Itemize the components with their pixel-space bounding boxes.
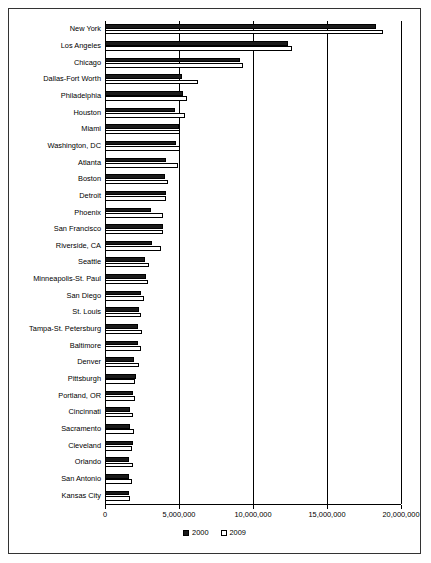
category-label: New York <box>70 25 101 32</box>
category-label: Washington, DC <box>47 142 101 149</box>
category-label: Cincinnati <box>69 408 101 415</box>
bar-series-2000 <box>105 41 288 46</box>
bar-series-2000 <box>105 474 129 479</box>
bar-series-2000 <box>105 241 152 246</box>
category-label: Baltimore <box>70 342 101 349</box>
bar-series-2000 <box>105 357 134 362</box>
bar-series-2000 <box>105 58 240 63</box>
category-label: Boston <box>78 175 101 182</box>
category-label: Denver <box>77 358 101 365</box>
x-axis-tick-label: 10,000,000 <box>223 511 283 518</box>
category-label: Orlando <box>75 458 101 465</box>
bar-series-2000 <box>105 158 166 163</box>
bar-series-2000 <box>105 424 130 429</box>
bar-series-2009 <box>105 46 292 51</box>
bar-series-2009 <box>105 96 187 101</box>
bar-series-2000 <box>105 191 166 196</box>
bar-series-2000 <box>105 208 151 213</box>
bar-series-2000 <box>105 457 129 462</box>
x-axis-tick-label: 20,000,000 <box>371 511 431 518</box>
bar-series-2009 <box>105 80 198 85</box>
legend-swatch-icon <box>183 530 189 536</box>
bar-series-2000 <box>105 491 129 496</box>
category-label: Tampa-St. Petersburg <box>29 325 101 332</box>
chart-category-row: Baltimore <box>105 337 401 354</box>
category-label: Phoenix <box>74 209 101 216</box>
chart-category-row: Cincinnati <box>105 404 401 421</box>
bar-series-2000 <box>105 257 145 262</box>
chart-category-row: Dallas-Fort Worth <box>105 71 401 88</box>
bar-series-2009 <box>105 379 135 384</box>
chart-category-row: Minneapolis-St. Paul <box>105 271 401 288</box>
legend-entry: 2000 <box>183 528 208 537</box>
bar-series-2009 <box>105 146 180 151</box>
bar-series-2000 <box>105 391 133 396</box>
bar-series-2009 <box>105 246 161 251</box>
chart-category-row: Washington, DC <box>105 138 401 155</box>
bar-series-2009 <box>105 330 142 335</box>
bar-series-2000 <box>105 307 139 312</box>
bar-series-2009 <box>105 196 166 201</box>
bar-series-2009 <box>105 180 168 185</box>
chart-category-row: Los Angeles <box>105 38 401 55</box>
x-axis-tick <box>401 505 402 509</box>
chart-category-row: San Antonio <box>105 471 401 488</box>
chart-category-row: Houston <box>105 104 401 121</box>
category-label: Houston <box>73 109 101 116</box>
category-label: Pittsburgh <box>68 375 101 382</box>
chart-frame: Kansas CitySan AntonioOrlandoClevelandSa… <box>8 8 421 554</box>
bar-series-2009 <box>105 479 132 484</box>
chart-category-row: San Diego <box>105 287 401 304</box>
x-axis-tick-label: 0 <box>75 511 135 518</box>
chart-category-row: Riverside, CA <box>105 238 401 255</box>
category-label: Dallas-Fort Worth <box>43 75 101 82</box>
chart-category-row: Orlando <box>105 454 401 471</box>
bar-series-2009 <box>105 413 133 418</box>
category-label: Kansas City <box>62 492 101 499</box>
category-label: Portland, OR <box>58 392 101 399</box>
bar-series-2000 <box>105 91 183 96</box>
bar-series-2009 <box>105 313 141 318</box>
chart-category-row: Atlanta <box>105 154 401 171</box>
bar-series-2000 <box>105 274 146 279</box>
category-label: Sacramento <box>61 425 101 432</box>
bar-series-2009 <box>105 363 139 368</box>
chart-category-row: Seattle <box>105 254 401 271</box>
bar-series-2009 <box>105 346 141 351</box>
category-label: San Antonio <box>61 475 101 482</box>
bar-series-2000 <box>105 407 130 412</box>
bar-series-2000 <box>105 224 163 229</box>
bar-series-2009 <box>105 113 185 118</box>
legend-entry: 2009 <box>221 528 246 537</box>
category-label: Los Angeles <box>61 42 101 49</box>
bar-series-2009 <box>105 263 149 268</box>
category-label: San Diego <box>66 292 101 299</box>
x-axis-tick-label: 5,000,000 <box>149 511 209 518</box>
chart-category-row: Phoenix <box>105 204 401 221</box>
bar-series-2009 <box>105 296 144 301</box>
bar-series-2000 <box>105 124 179 129</box>
bar-series-2009 <box>105 63 243 68</box>
bar-series-2000 <box>105 341 138 346</box>
x-axis-tick-label: 15,000,000 <box>297 511 357 518</box>
category-label: Chicago <box>74 59 101 66</box>
bar-series-2000 <box>105 141 176 146</box>
x-axis-tick <box>253 505 254 509</box>
chart-category-row: Pittsburgh <box>105 371 401 388</box>
chart-category-row: Philadelphia <box>105 88 401 105</box>
bar-series-2000 <box>105 291 141 296</box>
x-axis-tick <box>179 505 180 509</box>
chart-category-row: Boston <box>105 171 401 188</box>
bar-series-2009 <box>105 213 163 218</box>
bar-series-2000 <box>105 174 165 179</box>
category-label: Philadelphia <box>61 92 101 99</box>
category-label: Seattle <box>78 258 101 265</box>
bar-series-2009 <box>105 230 163 235</box>
bar-series-2009 <box>105 130 180 135</box>
bar-series-2000 <box>105 108 175 113</box>
category-label: St. Louis <box>72 308 101 315</box>
bar-series-2000 <box>105 324 138 329</box>
chart-category-row: St. Louis <box>105 304 401 321</box>
chart-category-row: Kansas City <box>105 487 401 504</box>
legend-label: 2009 <box>230 528 246 537</box>
